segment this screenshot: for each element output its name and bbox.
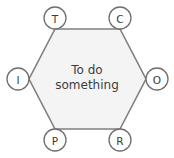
- node-o-label: O: [153, 74, 161, 86]
- node-p-label: P: [52, 135, 58, 147]
- node-i-label: I: [16, 74, 19, 86]
- node-c-label: C: [116, 13, 123, 25]
- node-p[interactable]: P: [44, 129, 66, 151]
- node-c[interactable]: C: [109, 7, 131, 29]
- node-r-label: R: [116, 135, 123, 147]
- center-label-line2: something: [55, 78, 119, 92]
- node-o[interactable]: O: [146, 68, 168, 90]
- node-t-label: T: [51, 13, 59, 25]
- diagram-canvas: To do something T C O R P I: [0, 0, 174, 158]
- node-i[interactable]: I: [7, 68, 29, 90]
- node-r[interactable]: R: [109, 129, 131, 151]
- node-t[interactable]: T: [44, 7, 66, 29]
- center-label-line1: To do: [70, 63, 102, 77]
- hexagon-diagram: To do something T C O R P I: [0, 0, 174, 158]
